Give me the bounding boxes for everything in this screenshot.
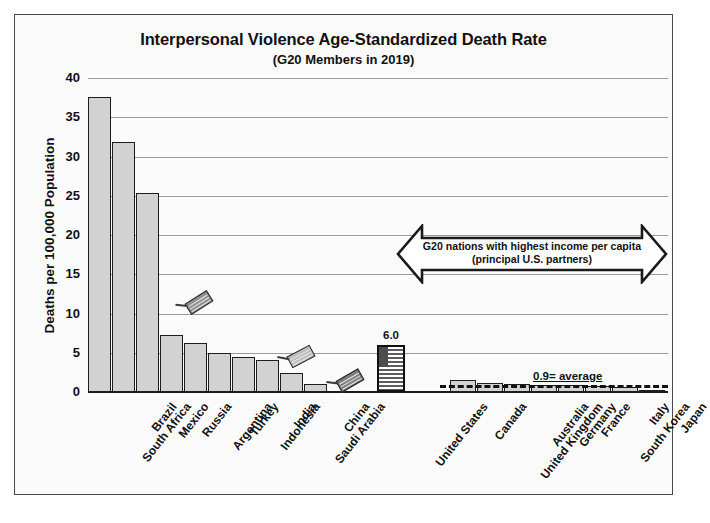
average-line-label: 0.9= average — [533, 370, 602, 382]
flag-pole — [326, 381, 338, 384]
average-dashed-line — [440, 385, 668, 388]
y-tick-label-0: 0 — [36, 384, 80, 399]
y-tick-label-25: 25 — [36, 188, 80, 203]
gridline-30 — [88, 157, 668, 158]
bar-united-states — [377, 345, 405, 392]
bar-india — [256, 360, 279, 392]
y-tick-label-20: 20 — [36, 227, 80, 242]
double-arrow-icon — [396, 224, 668, 284]
flag-pole — [277, 356, 289, 360]
y-tick-label-15: 15 — [36, 266, 80, 281]
bar-italy — [612, 387, 638, 392]
bar-brazil — [112, 142, 135, 392]
y-tick-label-35: 35 — [36, 109, 80, 124]
bar-saudi-arabia — [280, 373, 303, 392]
gridline-25 — [88, 196, 668, 197]
bar-turkey — [208, 353, 231, 392]
flag-pole — [175, 304, 187, 307]
china-flag-marker — [335, 368, 364, 392]
gridline-35 — [88, 117, 668, 118]
y-tick-label-5: 5 — [36, 345, 80, 360]
bar-argentina — [184, 343, 207, 392]
bar-russia — [160, 335, 183, 392]
bar-indonesia — [232, 357, 255, 392]
gridline-10 — [88, 314, 668, 315]
chart-title: Interpersonal Violence Age-Standardized … — [14, 30, 673, 49]
bar-value-label-united-states: 6.0 — [371, 329, 411, 341]
bar-japan — [639, 390, 665, 392]
bar-mexico — [136, 193, 159, 392]
income-arrow-annotation: G20 nations with highest income per capi… — [396, 224, 668, 284]
y-tick-label-40: 40 — [36, 70, 80, 85]
y-tick-label-10: 10 — [36, 306, 80, 321]
chart-subtitle: (G20 Members in 2019) — [14, 52, 673, 67]
bar-south-africa — [88, 97, 111, 392]
bar-china — [304, 384, 327, 392]
russia-flag-marker — [185, 290, 214, 315]
india-flag-marker — [286, 345, 315, 369]
y-tick-label-30: 30 — [36, 149, 80, 164]
gridline-40 — [88, 78, 668, 79]
